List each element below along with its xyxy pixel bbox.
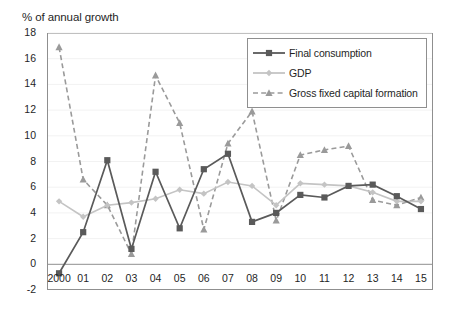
legend-item-final-consumption[interactable]: Final consumption [252, 43, 421, 63]
x-tick-label: 15 [401, 272, 441, 284]
y-tick-label: 6 [8, 180, 36, 192]
legend-label-gdp: GDP [289, 67, 311, 79]
y-tick-label: 4 [8, 206, 36, 218]
y-tick-label: 0 [8, 257, 36, 269]
y-tick-label: 12 [8, 103, 36, 115]
y-tick-label: 18 [8, 26, 36, 38]
chart-title: % of annual growth [22, 11, 119, 23]
legend-item-gross-fixed-capital-formation[interactable]: Gross fixed capital formation [252, 83, 421, 103]
growth-line-chart: % of annual growth 181614121086420-2 200… [0, 0, 453, 313]
legend-label-final-consumption: Final consumption [289, 47, 372, 59]
chart-legend: Final consumption GDP Gross fixed capita… [247, 38, 427, 108]
data-point-marker [266, 50, 272, 56]
data-point-marker [266, 70, 272, 76]
y-tick-label: 2 [8, 232, 36, 244]
y-tick-label: 14 [8, 77, 36, 89]
legend-swatch-gdp [252, 66, 286, 80]
legend-swatch-final-consumption [252, 46, 286, 60]
legend-swatch-gross-fixed-capital-formation [252, 86, 286, 100]
y-tick-label: -2 [8, 283, 36, 295]
legend-item-gdp[interactable]: GDP [252, 63, 421, 83]
y-tick-label: 16 [8, 52, 36, 64]
legend-label-gross-fixed-capital-formation: Gross fixed capital formation [289, 87, 418, 99]
y-tick-label: 10 [8, 129, 36, 141]
y-tick-label: 8 [8, 155, 36, 167]
